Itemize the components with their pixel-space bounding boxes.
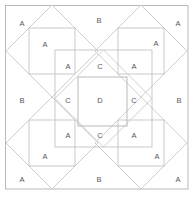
- cell-label-c-bottom: C: [97, 132, 102, 140]
- cell-label-c-right: C: [131, 97, 136, 105]
- cell-label-a-tl-inner: A: [42, 41, 47, 49]
- cell-label-b-left: B: [19, 97, 24, 105]
- cell-label-b-top: B: [96, 17, 101, 25]
- cell-label-a-bl-inner: A: [42, 153, 47, 161]
- cell-label-b-bottom: B: [96, 176, 101, 184]
- cell-label-a-tr-inner: A: [153, 40, 158, 48]
- cell-label-a-mid-tr: A: [131, 63, 136, 71]
- cell-label-c-left: C: [65, 97, 70, 105]
- cell-label-d-center: D: [97, 97, 102, 105]
- cell-label-a-br-inner: A: [154, 153, 159, 161]
- geometric-pattern-diagram: A B A A A A C A B C D C B A C A A A A B …: [0, 0, 194, 197]
- label-layer: A B A A A A C A B C D C B A C A A A A B …: [0, 0, 194, 197]
- cell-label-a-mid-bl: A: [65, 132, 70, 140]
- cell-label-a-bl-outer: A: [19, 176, 24, 184]
- cell-label-a-mid-br: A: [131, 132, 136, 140]
- cell-label-a-tl-outer: A: [19, 20, 24, 28]
- cell-label-a-mid-tl: A: [65, 63, 70, 71]
- cell-label-c-top: C: [97, 63, 102, 71]
- cell-label-a-br-outer: A: [175, 176, 180, 184]
- cell-label-a-tr-outer: A: [175, 20, 180, 28]
- cell-label-b-right: B: [176, 97, 181, 105]
